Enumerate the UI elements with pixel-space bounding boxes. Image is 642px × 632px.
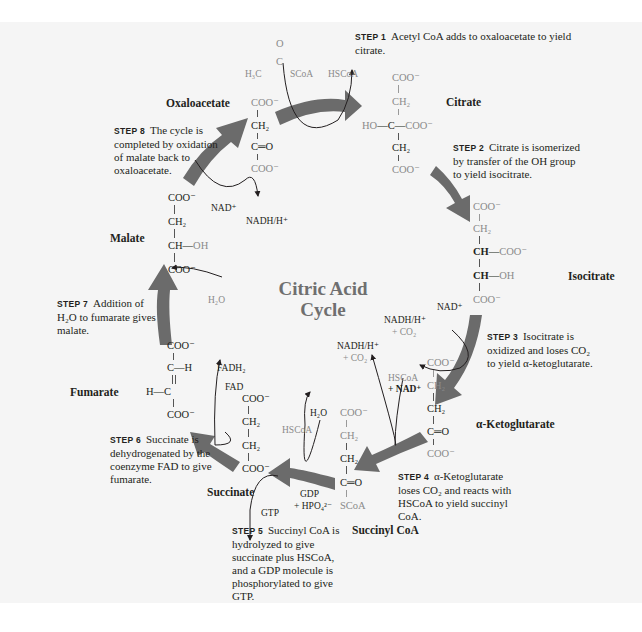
scoa-scoa: SCoA bbox=[340, 500, 366, 512]
compound-citrate: Citrate bbox=[446, 96, 481, 108]
cit-ch2-top: CH₂ bbox=[392, 96, 410, 108]
mal-ch2: CH₂ bbox=[168, 216, 186, 228]
mal-coo-top: COO⁻ bbox=[168, 192, 196, 204]
arrow-step4 bbox=[354, 432, 428, 472]
fadh2-step6: FADH₂ bbox=[217, 362, 245, 374]
step-3-description: STEP 3Isocitrate is oxidized and loses C… bbox=[487, 330, 597, 370]
fum-c-h: C—H bbox=[167, 362, 192, 374]
iso-oh: OH bbox=[499, 270, 514, 281]
akg-ch2-bottom: CH₂ bbox=[427, 403, 445, 415]
cit-center: HO—C—COO⁻ bbox=[362, 120, 433, 132]
compound-isocitrate: Isocitrate bbox=[568, 270, 615, 282]
nad-step4: + NAD⁺ bbox=[388, 383, 421, 395]
cit-coo-top: COO⁻ bbox=[392, 72, 420, 84]
fad-step6: FAD bbox=[225, 381, 243, 393]
step-8-label: STEP 8 bbox=[114, 126, 145, 136]
cycle-title: Citric Acid Cycle bbox=[268, 278, 378, 320]
fum-h-c: H—C bbox=[146, 386, 171, 398]
arrow-step5 bbox=[268, 458, 335, 490]
akg-ch2-top: CH₂ bbox=[427, 380, 445, 392]
compound-malate: Malate bbox=[110, 232, 144, 244]
mal-ch: CH bbox=[168, 240, 183, 251]
h2o-step7: H₂O bbox=[208, 294, 225, 306]
nadh-step8: NADH/H⁺ bbox=[246, 215, 288, 227]
scoa-c-eq-o: C═O bbox=[340, 477, 362, 489]
oxa-ch2: CH₂ bbox=[251, 120, 269, 132]
iso-coo-bottom: COO⁻ bbox=[473, 294, 501, 306]
fum-h2: H bbox=[146, 386, 154, 397]
oxa-c-eq-o: C═O bbox=[251, 141, 273, 153]
acetyl-h3c: H₃C bbox=[245, 68, 262, 80]
iso-ch1: CH bbox=[473, 246, 489, 257]
step-2-label: STEP 2 bbox=[453, 143, 484, 153]
step-3-label: STEP 3 bbox=[487, 332, 518, 342]
step-6-label: STEP 6 bbox=[110, 435, 141, 445]
step-2-description: STEP 2Citrate is isom­erized by transfer… bbox=[453, 141, 583, 181]
co2-step4: + CO₂ bbox=[343, 352, 367, 364]
gtp-step5: GTP bbox=[261, 507, 279, 519]
compound-fumarate: Fumarate bbox=[70, 386, 119, 398]
scoa-coo-top: COO⁻ bbox=[340, 407, 368, 419]
suc-coo-top: COO⁻ bbox=[242, 393, 270, 405]
compound-oxaloacetate: Oxaloacetate bbox=[166, 97, 230, 109]
title-line-1: Citric Acid bbox=[268, 278, 378, 299]
mal-ch-oh: CH—OH bbox=[168, 240, 208, 252]
step-1-description: STEP 1Acetyl CoA adds to oxaloacetate to… bbox=[355, 30, 595, 57]
cit-coo-bottom: COO⁻ bbox=[392, 164, 420, 176]
akg-c-eq-o: C═O bbox=[427, 426, 449, 438]
hpo4-step5: + HPO₄²⁻ bbox=[294, 500, 332, 512]
fum-coo-top: COO⁻ bbox=[167, 340, 195, 352]
suc-ch2-top: CH₂ bbox=[242, 416, 260, 428]
gdp-step5: GDP bbox=[300, 488, 319, 500]
cit-ch2-bottom: CH₂ bbox=[392, 142, 410, 154]
cit-ho: HO bbox=[362, 120, 377, 131]
step-4-description: STEP 4α-Ketoglutarate loses CO₂ and reac… bbox=[398, 470, 513, 523]
iso-ch-oh: CH—OH bbox=[473, 270, 514, 282]
acetyl-scoa: SCoA bbox=[290, 68, 313, 80]
step-4-label: STEP 4 bbox=[398, 472, 429, 482]
cit-c: C bbox=[388, 120, 395, 131]
oxa-coo-top: COO⁻ bbox=[251, 97, 279, 109]
h2o-step5: H₂O bbox=[310, 407, 327, 419]
nadh-step4: NADH/H⁺ bbox=[337, 340, 379, 352]
title-line-2: Cycle bbox=[268, 299, 378, 320]
compound-succinyl-coa: Succinyl CoA bbox=[352, 524, 419, 536]
cit-coo-mid: COO⁻ bbox=[405, 120, 433, 131]
step-7-label: STEP 7 bbox=[57, 299, 88, 309]
hscoa-step1: HSCoA bbox=[328, 68, 358, 80]
co2-step3: + CO₂ bbox=[392, 326, 416, 338]
step-1-text: Acetyl CoA adds to oxaloacetate to yield… bbox=[355, 30, 571, 56]
fum-coo-bottom: COO⁻ bbox=[167, 409, 195, 421]
scoa-ch2-top: CH₂ bbox=[340, 430, 358, 442]
step-7-description: STEP 7Addition of H₂O to fuma­rate gives… bbox=[57, 297, 157, 337]
akg-coo-bottom: COO⁻ bbox=[427, 448, 455, 460]
iso-ch2: CH₂ bbox=[473, 223, 491, 235]
hscoa-step5: HSCoA bbox=[282, 424, 312, 436]
fum-c2: C bbox=[164, 386, 171, 397]
acetyl-c: C bbox=[276, 56, 283, 68]
akg-coo-top: COO⁻ bbox=[427, 357, 455, 369]
scoa-ch2-bottom: CH₂ bbox=[340, 453, 358, 465]
iso-coo-top: COO⁻ bbox=[473, 201, 501, 213]
step-8-description: STEP 8The cycle is completed by oxida­ti… bbox=[114, 124, 224, 177]
suc-coo-bottom: COO⁻ bbox=[242, 463, 270, 475]
step-6-description: STEP 6Succinate is dehydrogenated by the… bbox=[110, 433, 220, 486]
mal-coo-bottom: COO⁻ bbox=[168, 264, 196, 276]
iso-ch2-lbl: CH bbox=[473, 270, 489, 281]
iso-ch-coo: CH—COO⁻ bbox=[473, 246, 527, 258]
nad-step8: NAD⁺ bbox=[211, 202, 237, 214]
oxa-coo-bottom: COO⁻ bbox=[251, 163, 279, 175]
compound-succinate: Succinate bbox=[207, 486, 254, 498]
nad-step3: NAD⁺ bbox=[437, 301, 463, 313]
iso-coo-mid: COO⁻ bbox=[499, 246, 527, 257]
fum-h1: H bbox=[185, 362, 193, 373]
step-1-label: STEP 1 bbox=[355, 32, 386, 42]
acetyl-o: O bbox=[276, 38, 284, 50]
nadh-step3: NADH/H⁺ bbox=[384, 314, 426, 326]
step-5-description: STEP 5Succinyl CoA is hydrolyzed to give… bbox=[232, 524, 350, 603]
compound-alpha-ketoglutarate: α-Ketoglutarate bbox=[476, 418, 555, 430]
step-5-label: STEP 5 bbox=[232, 526, 263, 536]
suc-ch2-bottom: CH₂ bbox=[242, 440, 260, 452]
fum-c1: C bbox=[167, 362, 174, 373]
mal-oh: OH bbox=[193, 240, 208, 251]
